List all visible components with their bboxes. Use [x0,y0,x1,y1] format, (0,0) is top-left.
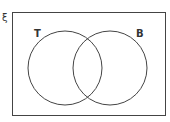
set-t-label: T [34,28,41,39]
venn-diagram: ξ T B [0,0,170,122]
universal-set-symbol: ξ [2,12,8,23]
set-t-circle [28,31,102,105]
set-b-circle [73,31,147,105]
set-b-label: B [136,28,144,39]
